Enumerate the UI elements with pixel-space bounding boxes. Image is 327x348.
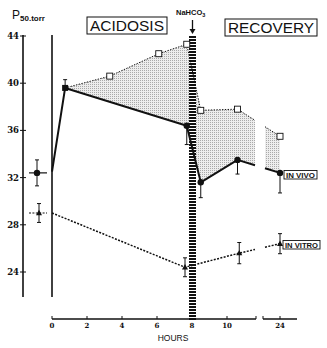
arrow-down-icon: [190, 20, 196, 34]
open-square-marker: [156, 51, 162, 57]
open-square-marker: [277, 133, 283, 139]
y-axis-title-main: P: [12, 8, 20, 22]
filled-circle-marker: [34, 170, 40, 176]
open-square-marker: [107, 73, 113, 79]
x-axis-title: HOURS: [158, 333, 189, 343]
open-square-marker: [198, 107, 204, 113]
nahco3-annotation: NaHCO3: [176, 8, 205, 18]
y-tick-label: 32: [7, 173, 19, 183]
x-tick-label: 4: [120, 321, 125, 330]
control-point-in-vivo: [29, 160, 47, 186]
svg-text:RECOVERY: RECOVERY: [228, 19, 314, 36]
filled-circle-marker: [198, 179, 204, 185]
filled-circle-marker: [277, 170, 283, 176]
filled-circle-marker: [234, 157, 240, 163]
y-axis-title: P50.torr: [12, 8, 45, 23]
x-tick-label: 2: [85, 321, 90, 330]
open-square-marker: [184, 41, 190, 47]
open-square-marker: [235, 106, 241, 112]
y-tick-label: 40: [7, 78, 19, 88]
svg-text:ACIDOSIS: ACIDOSIS: [90, 17, 164, 34]
y-axis-title-sub: 50.torr: [20, 14, 45, 23]
y-tick-label: 36: [7, 125, 19, 135]
y-tick-label: 24: [7, 267, 19, 277]
control-point-in-vitro: [29, 204, 47, 223]
series-line: [52, 213, 255, 267]
bicarbonate-hatched-bar: [189, 35, 196, 320]
y-tick-label: 44: [7, 31, 19, 41]
filled-triangle-marker: [277, 240, 283, 245]
label-in-vitro: IN VITRO: [283, 241, 320, 250]
x-tick-label: 24: [275, 321, 285, 330]
chart-container: 444036322824024681024 P50.torr ACIDOSIS …: [0, 0, 327, 348]
x-tick-label: 8: [190, 321, 195, 330]
svg-text:IN VIVO: IN VIVO: [286, 172, 316, 179]
shaded-area: [65, 44, 255, 182]
phase-label-recovery: RECOVERY: [225, 19, 317, 36]
y-tick-label: 28: [7, 220, 19, 230]
shaded-region: [65, 44, 280, 182]
phase-label-acidosis: ACIDOSIS: [87, 17, 167, 34]
filled-circle-marker: [184, 122, 190, 128]
filled-triangle-marker: [182, 264, 188, 269]
x-tick-label: 0: [50, 321, 55, 330]
x-tick-label: 10: [222, 321, 232, 330]
x-tick-label: 6: [155, 321, 160, 330]
series-in-vitro: [52, 213, 283, 277]
label-in-vivo: IN VIVO: [284, 171, 317, 180]
p50-chart: 444036322824024681024 P50.torr ACIDOSIS …: [0, 0, 327, 348]
svg-text:IN VITRO: IN VITRO: [285, 242, 319, 249]
